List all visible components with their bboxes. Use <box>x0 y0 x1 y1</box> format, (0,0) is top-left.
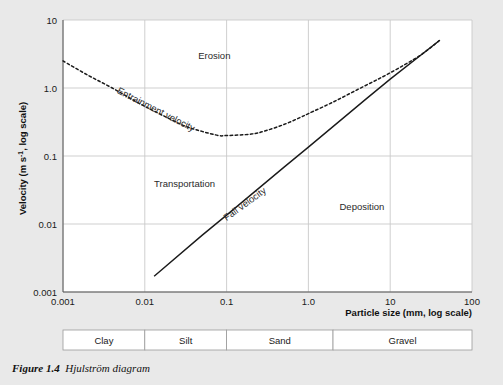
y-axis-title: Velocity (m s-1, log scale) <box>17 102 29 215</box>
x-tick-label: 100 <box>464 296 480 307</box>
y-axis-tick-labels: 101.00.10.010.001 <box>33 15 57 298</box>
x-tick-label: 0.1 <box>220 296 233 307</box>
classification-label-gravel: Gravel <box>389 335 417 346</box>
hjulstrom-diagram-svg: 0.0010.010.11.010100 101.00.10.010.001 E… <box>0 0 503 385</box>
x-tick-label: 0.001 <box>51 296 75 307</box>
sediment-classification-bar: ClaySiltSandGravel <box>63 330 472 350</box>
x-tick-label: 0.01 <box>136 296 155 307</box>
y-axis-title-prefix: Velocity (m s <box>17 157 28 215</box>
annotation-deposition: Deposition <box>340 201 385 212</box>
y-tick-label: 1.0 <box>44 83 57 94</box>
y-tick-label: 0.1 <box>44 151 57 162</box>
figure-container: 0.0010.010.11.010100 101.00.10.010.001 E… <box>0 0 503 385</box>
x-tick-label: 1.0 <box>302 296 315 307</box>
y-tick-label: 10 <box>46 15 57 26</box>
y-axis-title-suffix: , log scale) <box>17 102 28 151</box>
figure-caption-title: Hjulström diagram <box>65 362 150 374</box>
x-axis-tick-labels: 0.0010.010.11.010100 <box>51 296 480 307</box>
y-tick-label: 0.01 <box>39 219 58 230</box>
annotation-erosion: Erosion <box>198 50 230 61</box>
x-axis-title: Particle size (mm, log scale) <box>345 307 472 318</box>
figure-caption-label: Figure 1.4 <box>12 362 60 374</box>
x-tick-label: 10 <box>385 296 396 307</box>
classification-label-silt: Silt <box>179 335 193 346</box>
classification-label-sand: Sand <box>269 335 291 346</box>
annotation-transportation: Transportation <box>154 178 215 189</box>
y-tick-label: 0.001 <box>33 287 57 298</box>
figure-caption: Figure 1.4 Hjulström diagram <box>12 362 150 374</box>
classification-label-clay: Clay <box>94 335 113 346</box>
